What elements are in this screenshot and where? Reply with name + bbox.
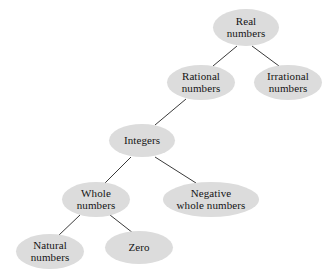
edge-real-numbers-to-irrational-numbers bbox=[252, 46, 279, 66]
node-label-whole-numbers: Whole numbers bbox=[75, 188, 118, 211]
node-label-negative-whole-numbers: Negative whole numbers bbox=[175, 188, 248, 211]
node-real-numbers: Real numbers bbox=[213, 9, 279, 46]
edge-whole-numbers-to-natural-numbers bbox=[58, 215, 80, 236]
node-integers: Integers bbox=[109, 124, 175, 157]
edge-whole-numbers-to-zero bbox=[110, 215, 133, 233]
edge-rational-numbers-to-integers bbox=[155, 99, 186, 125]
edge-real-numbers-to-rational-numbers bbox=[213, 46, 237, 66]
node-label-natural-numbers: Natural numbers bbox=[29, 240, 72, 263]
edge-integers-to-negative-whole-numbers bbox=[155, 157, 196, 183]
node-label-real-numbers: Real numbers bbox=[225, 16, 268, 39]
node-rational-numbers: Rational numbers bbox=[167, 65, 235, 100]
number-system-diagram: Real numbersRational numbersIrrational n… bbox=[0, 0, 329, 277]
node-negative-whole-numbers: Negative whole numbers bbox=[163, 182, 259, 217]
node-label-integers: Integers bbox=[122, 135, 162, 147]
node-whole-numbers: Whole numbers bbox=[62, 182, 130, 217]
node-label-irrational-numbers: Irrational numbers bbox=[265, 71, 311, 94]
node-zero: Zero bbox=[105, 231, 173, 264]
node-label-rational-numbers: Rational numbers bbox=[180, 71, 223, 94]
node-natural-numbers: Natural numbers bbox=[16, 234, 84, 269]
edge-integers-to-whole-numbers bbox=[105, 157, 131, 183]
node-irrational-numbers: Irrational numbers bbox=[254, 65, 322, 100]
node-label-zero: Zero bbox=[126, 242, 151, 254]
